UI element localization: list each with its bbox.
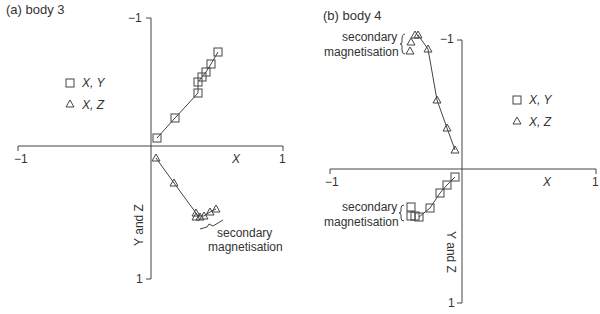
panel-b-annotation-top-line1: secondary bbox=[342, 30, 397, 44]
panel-b-x-axis-label: X bbox=[543, 175, 551, 189]
panel-a-series-xz bbox=[152, 154, 220, 220]
panel-b-tick-x-left: −1 bbox=[325, 175, 339, 189]
panel-a-title: (a) body 3 bbox=[6, 2, 65, 17]
panel-b-tick-y-top: −1 bbox=[440, 32, 454, 46]
panel-b-legend-xy: X, Y bbox=[529, 93, 551, 107]
panel-b-annotation-bottom-line2: magnetisation bbox=[324, 215, 399, 229]
panel-b-series-xy bbox=[407, 173, 459, 221]
panel-a-legend-square-icon bbox=[66, 79, 74, 87]
panel-b-annotation-top-line2: magnetisation bbox=[324, 45, 399, 59]
panel-b-title: (b) body 4 bbox=[323, 8, 382, 23]
panel-a-y-axis-label: Y and Z bbox=[132, 204, 146, 246]
panel-b-brace-top bbox=[400, 34, 405, 54]
panel-a-legend-xy: X, Y bbox=[82, 76, 104, 90]
panel-b-legend-xz: X, Z bbox=[529, 115, 551, 129]
panel-b-annotation-bottom-line1: secondary bbox=[342, 200, 397, 214]
panel-a-annotation-line2: magnetisation bbox=[208, 240, 283, 254]
panel-b-axes bbox=[330, 40, 596, 303]
panel-a-tick-y-top: −1 bbox=[128, 11, 142, 25]
panel-b-series-xz bbox=[406, 31, 459, 153]
panel-b-brace-bottom bbox=[399, 205, 404, 221]
panel-b-tick-x-right: 1 bbox=[592, 175, 599, 189]
panel-b-y-axis-label: Y and Z bbox=[444, 231, 458, 273]
panel-b-legend-square-icon bbox=[513, 96, 521, 104]
panel-a-legend-triangle-icon bbox=[66, 100, 74, 107]
panel-a-series-xy bbox=[153, 48, 222, 142]
panel-a-x-axis-label: X bbox=[232, 152, 240, 166]
chart-canvas bbox=[0, 0, 600, 314]
panel-b-legend-triangle-icon bbox=[513, 117, 521, 124]
panel-a-tick-x-right: 1 bbox=[279, 152, 286, 166]
panel-a-tick-y-bottom: 1 bbox=[136, 272, 143, 286]
panel-a-annotation-line1: secondary bbox=[217, 226, 272, 240]
panel-b-tick-y-bottom: 1 bbox=[448, 296, 455, 310]
panel-a-tick-x-left: −1 bbox=[14, 152, 28, 166]
panel-a-legend-xz: X, Z bbox=[82, 98, 104, 112]
